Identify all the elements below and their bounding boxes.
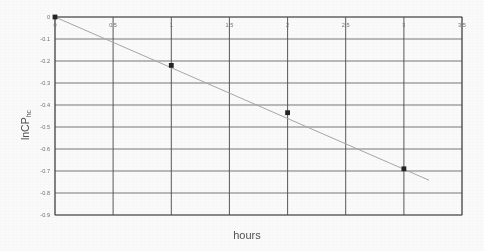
y-tick-label-0: 0 (47, 14, 50, 20)
data-point-1 (169, 63, 174, 68)
x-tick-label-0: 0 (53, 22, 56, 28)
data-point-0 (53, 15, 58, 20)
y-tick-label--0.3: -0.3 (40, 80, 50, 86)
y-axis-title-sub: hc (25, 109, 32, 117)
y-tick-label--0.9: -0.9 (40, 212, 50, 218)
y-axis-title-main: lnCP (19, 117, 31, 140)
y-tick-label--0.4: -0.4 (40, 102, 50, 108)
x-tick-label-2: 2 (286, 22, 289, 28)
y-tick-label--0.8: -0.8 (40, 190, 50, 196)
x-tick-label-2.5: 2.5 (342, 22, 350, 28)
y-tick-label--0.6: -0.6 (40, 146, 50, 152)
x-tick-label-1.5: 1.5 (226, 22, 234, 28)
data-point-2 (285, 110, 290, 115)
chart-figure: 0 0.5 1 1.5 2 2.5 3 3.5 0 -0.1 -0.2 -0.3… (0, 0, 484, 251)
y-tick-label--0.7: -0.7 (40, 168, 50, 174)
x-axis-title: hours (233, 229, 261, 241)
y-tick-label--0.2: -0.2 (40, 58, 50, 64)
chart-background (0, 0, 484, 251)
x-tick-label-3: 3 (402, 22, 405, 28)
x-tick-label-1: 1 (170, 22, 173, 28)
chart-canvas: 0 0.5 1 1.5 2 2.5 3 3.5 0 -0.1 -0.2 -0.3… (0, 0, 484, 251)
data-point-3 (402, 166, 407, 171)
y-tick-label--0.1: -0.1 (40, 36, 50, 42)
x-tick-label-0.5: 0.5 (109, 22, 117, 28)
x-tick-label-3.5: 3.5 (458, 22, 466, 28)
y-tick-label--0.5: -0.5 (40, 124, 50, 130)
